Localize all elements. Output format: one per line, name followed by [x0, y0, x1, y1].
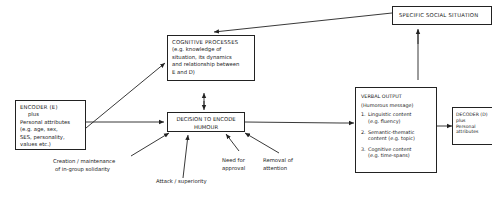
verbal-item-1: 1. Linguistic content(e.g. fluency) [361, 111, 431, 123]
motive-solidarity-line1: Creation / maintenance [53, 158, 115, 166]
verbal-item-2: 2. Semantic-thematiccontent (e.g. topic) [361, 129, 431, 141]
encoder-title: ENCODER (E) [20, 104, 81, 111]
decoder-title: DECODER (D) [456, 112, 489, 118]
verbal-item-2-num: 2. [361, 129, 368, 141]
motive-solidarity-label: Creation / maintenance of in-group solid… [53, 158, 115, 173]
motive-attention-label: Removal of attention [263, 157, 293, 172]
motive-attention-line2: attention [263, 165, 293, 173]
verbal-item-1-line2: (e.g. fluency) [368, 118, 412, 124]
encoder-line-1: Personal attributes [20, 119, 81, 126]
cognitive-line-4: E and D) [172, 69, 250, 76]
verbal-item-3-num: 3. [361, 146, 368, 158]
encoder-line-3: SES, personality, [20, 134, 81, 141]
motive-approval-line1: Need for [222, 157, 245, 165]
cognitive-title: COGNITIVE PROCESSES [172, 39, 250, 46]
social-situation-box: SPECIFIC SOCIAL SITUATION [392, 6, 492, 25]
cognitive-line-3: and relationship between [172, 61, 250, 68]
verbal-item-3: 3. Cognitive content(e.g. time-spans) [361, 146, 431, 158]
verbal-output-box: VERBAL OUTPUT (Humorous message) 1. Ling… [355, 87, 437, 173]
verbal-item-1-num: 1. [361, 111, 368, 123]
cognitive-line-1: (e.g. knowledge of [172, 46, 250, 53]
encoder-line-4: values etc.) [20, 141, 81, 148]
verbal-item-3-line2: (e.g. time-spans) [368, 152, 411, 158]
social-title: SPECIFIC SOCIAL SITUATION [399, 12, 485, 19]
verbal-item-1-line1: Linguistic content [368, 111, 412, 117]
decoder-line-2: attributes [456, 129, 489, 135]
decision-line-2: HUMOUR [170, 123, 242, 131]
motive-approval-line2: approval [222, 165, 245, 173]
decision-line-1: DECISION TO ENCODE [170, 115, 242, 123]
encoder-line-2: (e.g. age, sex, [20, 126, 81, 133]
cognitive-line-2: situation, its dynamics [172, 54, 250, 61]
motive-superiority-label: Attack / superiority [156, 178, 207, 186]
encoder-plus: plus [20, 111, 81, 118]
encoder-box: ENCODER (E) plus Personal attributes (e.… [15, 100, 86, 150]
motive-solidarity-line2: of in-group solidarity [53, 166, 115, 174]
verbal-title: VERBAL OUTPUT [361, 93, 431, 99]
verbal-subtitle: (Humorous message) [361, 102, 431, 108]
motive-attention-line1: Removal of [263, 157, 293, 165]
decoder-box: DECODER (D) plus Personal attributes [452, 107, 492, 145]
decision-box: DECISION TO ENCODE HUMOUR [167, 112, 245, 132]
verbal-item-2-line2: content (e.g. topic) [368, 135, 415, 141]
motive-approval-label: Need for approval [222, 157, 245, 172]
cognitive-processes-box: COGNITIVE PROCESSES (e.g. knowledge of s… [167, 35, 255, 81]
